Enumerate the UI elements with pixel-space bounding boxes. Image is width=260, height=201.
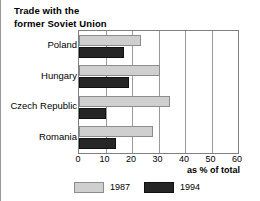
x-tick-50: 50 — [201, 154, 221, 164]
chart-title: Trade with the former Soviet Union — [14, 5, 107, 30]
bar-romania-1994 — [79, 138, 116, 149]
x-tick-60: 60 — [227, 154, 247, 164]
x-tick-10: 10 — [95, 154, 115, 164]
legend-label-1994: 1994 — [180, 182, 200, 193]
plot-area — [78, 30, 239, 154]
chart-legend: 1987 1994 — [1, 180, 260, 198]
legend-label-1987: 1987 — [110, 182, 130, 193]
x-tick-20: 20 — [121, 154, 141, 164]
bar-poland-1994 — [79, 47, 124, 58]
chart-figure: Trade with the former Soviet Union Polan… — [0, 0, 260, 201]
gridline-50 — [212, 31, 213, 153]
category-label-romania: Romania — [0, 132, 77, 142]
category-label-czech-republic: Czech Republic — [0, 101, 77, 111]
bar-romania-1987 — [79, 126, 153, 137]
x-tick-0: 0 — [68, 154, 88, 164]
bar-hungary-1994 — [79, 77, 129, 88]
bar-hungary-1987 — [79, 65, 160, 76]
bar-czech-republic-1987 — [79, 96, 170, 107]
legend-swatch-1994 — [144, 182, 174, 193]
bar-poland-1987 — [79, 35, 141, 46]
category-label-poland: Poland — [0, 40, 77, 50]
gridline-30 — [159, 31, 160, 153]
x-axis-label: as % of total — [187, 165, 240, 175]
category-label-hungary: Hungary — [0, 71, 77, 81]
legend-swatch-1987 — [74, 182, 104, 193]
x-tick-30: 30 — [148, 154, 168, 164]
gridline-40 — [185, 31, 186, 153]
bar-czech-republic-1994 — [79, 108, 106, 119]
x-tick-40: 40 — [174, 154, 194, 164]
